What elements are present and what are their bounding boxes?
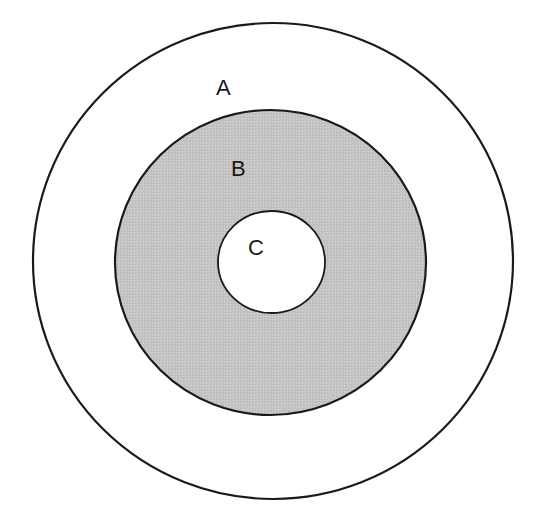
label-c: C bbox=[248, 235, 264, 260]
label-b: B bbox=[231, 156, 246, 181]
inner-circle-c bbox=[218, 211, 325, 313]
label-a: A bbox=[216, 75, 231, 100]
nested-circles-diagram: A B C bbox=[0, 0, 539, 524]
region-c bbox=[218, 211, 325, 313]
